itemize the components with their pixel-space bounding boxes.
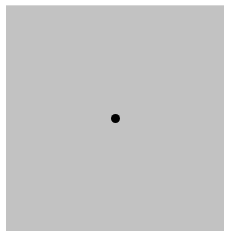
stimulus-canvas [0, 0, 229, 234]
fixation-dot [111, 114, 120, 123]
